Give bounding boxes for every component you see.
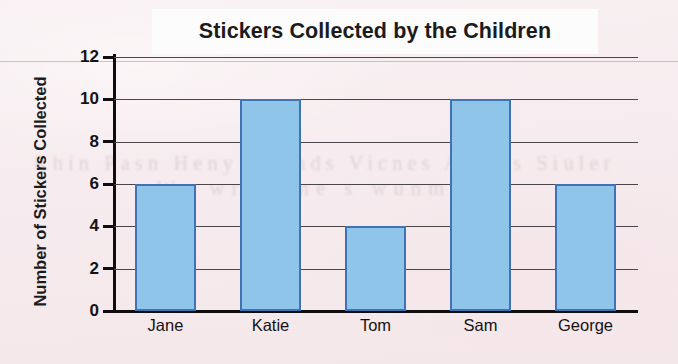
y-tick-12 bbox=[103, 56, 114, 59]
y-tick-2 bbox=[103, 267, 114, 270]
gridline-10 bbox=[113, 99, 638, 100]
gridline-12 bbox=[113, 57, 638, 58]
gridline-8 bbox=[113, 142, 638, 143]
x-label-tom: Tom bbox=[316, 316, 436, 335]
x-label-jane: Jane bbox=[106, 316, 226, 335]
y-tick-label-10: 10 bbox=[65, 90, 99, 107]
y-tick-label-6: 6 bbox=[65, 175, 99, 192]
y-tick-10 bbox=[103, 98, 114, 101]
x-label-katie: Katie bbox=[211, 316, 331, 335]
chart-page: Rhin Pasn Heny Snunds Vicnes Aenws Siule… bbox=[0, 0, 678, 364]
y-tick-label-8: 8 bbox=[65, 133, 99, 150]
bar-sam bbox=[450, 99, 511, 311]
y-tick-8 bbox=[103, 140, 114, 143]
bar-katie bbox=[240, 99, 301, 311]
y-tick-label-0: 0 bbox=[65, 302, 99, 319]
bar-george bbox=[555, 184, 616, 311]
x-label-sam: Sam bbox=[421, 316, 541, 335]
chart-title: Stickers Collected by the Children bbox=[152, 9, 598, 54]
y-tick-label-12: 12 bbox=[65, 48, 99, 65]
bar-tom bbox=[345, 226, 406, 311]
x-label-george: George bbox=[526, 316, 646, 335]
y-tick-label-4: 4 bbox=[65, 217, 99, 234]
plot-area bbox=[113, 57, 638, 311]
y-tick-label-2: 2 bbox=[65, 260, 99, 277]
y-axis-label: Number of Stickers Collected bbox=[31, 58, 50, 326]
y-tick-4 bbox=[103, 225, 114, 228]
y-tick-0 bbox=[103, 310, 114, 313]
bar-jane bbox=[135, 184, 196, 311]
y-tick-6 bbox=[103, 183, 114, 186]
